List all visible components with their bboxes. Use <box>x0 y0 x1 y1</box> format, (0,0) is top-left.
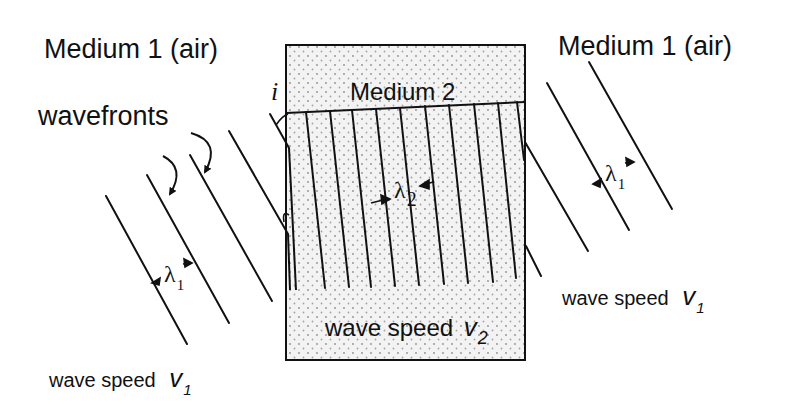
medium1-right-label: Medium 1 (air) <box>558 33 732 60</box>
lambda1-right-symbol: λ <box>605 160 617 186</box>
medium2-label: Medium 2 <box>350 80 455 104</box>
wave-speed-medium2-text: wave speed <box>325 314 453 341</box>
incident-wavefronts <box>106 114 289 344</box>
wave-speed-medium2-symbol: v <box>464 312 477 342</box>
lambda2-symbol: λ <box>394 177 406 203</box>
arrow-icon <box>184 259 192 267</box>
wave-speed-left-subscript: 1 <box>183 381 191 398</box>
wave-speed-left-symbol: v <box>169 363 182 393</box>
wave-speed-medium2-subscript: 2 <box>478 328 488 348</box>
curved-arrow-icon <box>191 133 211 172</box>
wave-speed-right-label: wave speed v1 <box>562 283 705 309</box>
lambda1-left-subscript: 1 <box>177 277 185 293</box>
wave-speed-left-text: wave speed <box>49 369 156 391</box>
lambda2-subscript: 2 <box>407 188 417 210</box>
arrow-icon <box>152 278 160 285</box>
lambda2-label: λ2 <box>394 178 417 202</box>
wave-speed-right-subscript: 1 <box>696 299 704 316</box>
arrow-icon <box>593 179 601 187</box>
angle-of-incidence-label: i <box>271 79 278 105</box>
emergent-wavefronts <box>525 62 672 276</box>
wave-speed-medium2-label: wave speed v2 <box>325 314 488 340</box>
curved-arrow-icon <box>163 156 177 194</box>
wave-speed-right-symbol: v <box>682 281 695 311</box>
wavefront-line <box>147 175 229 323</box>
lambda1-right-subscript: 1 <box>618 176 626 192</box>
wave-speed-right-text: wave speed <box>562 287 669 309</box>
wavefront-pointer-arrows <box>163 133 211 194</box>
wavefront-line <box>190 155 272 301</box>
lambda1-left-symbol: λ <box>164 261 176 287</box>
arrow-icon <box>626 158 634 166</box>
refraction-diagram: Medium 1 (air) Medium 1 (air) Medium 2 w… <box>0 0 796 404</box>
lambda1-right-label: λ1 <box>605 161 625 185</box>
wavefronts-label: wavefronts <box>38 103 169 130</box>
wavefront-line <box>229 131 288 234</box>
wave-speed-left-label: wave speed v1 <box>49 365 192 391</box>
lambda1-left-label: λ1 <box>164 262 184 286</box>
medium1-left-label: Medium 1 (air) <box>44 36 218 63</box>
